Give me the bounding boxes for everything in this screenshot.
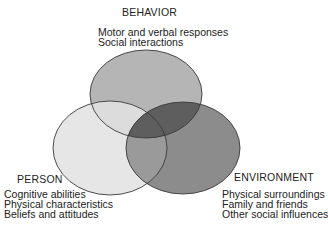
person-item: Beliefs and attitudes <box>4 209 99 220</box>
environment-item: Other social influences <box>222 209 328 220</box>
environment-title: ENVIRONMENT <box>234 172 314 183</box>
person-title: PERSON <box>17 174 63 185</box>
behavior-title: BEHAVIOR <box>122 7 177 18</box>
behavior-item: Social interactions <box>98 37 183 48</box>
